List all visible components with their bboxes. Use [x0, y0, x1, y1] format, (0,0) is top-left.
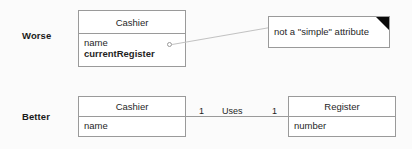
association-name-uses: Uses — [222, 106, 243, 116]
row-label-better: Better — [22, 111, 50, 122]
class-name-better-register: Register — [289, 97, 395, 117]
association-multiplicity-left: 1 — [199, 106, 204, 116]
attributes-compartment-worse-cashier: name currentRegister — [79, 34, 185, 66]
attributes-compartment-better-register: number — [289, 117, 395, 136]
attribute-name: name — [84, 120, 185, 131]
attribute-number: number — [294, 120, 395, 131]
uml-diagram-canvas: Worse Cashier name currentRegister not a… — [0, 0, 412, 149]
note-box-simple-attribute[interactable]: not a "simple" attribute — [268, 16, 390, 48]
row-label-worse: Worse — [22, 30, 51, 41]
class-name-better-cashier: Cashier — [79, 97, 185, 117]
class-box-better-register[interactable]: Register number — [288, 96, 396, 137]
class-box-worse-cashier[interactable]: Cashier name currentRegister — [78, 10, 186, 67]
note-connector-line — [172, 27, 269, 45]
attribute-current-register: currentRegister — [84, 48, 185, 59]
attributes-compartment-better-cashier: name — [79, 117, 185, 136]
class-box-better-cashier[interactable]: Cashier name — [78, 96, 186, 137]
association-line-uses — [186, 116, 288, 117]
class-name-worse-cashier: Cashier — [79, 11, 185, 34]
association-multiplicity-right: 1 — [272, 106, 277, 116]
note-text: not a "simple" attribute — [274, 26, 369, 37]
note-fold-corner-icon — [376, 17, 389, 30]
